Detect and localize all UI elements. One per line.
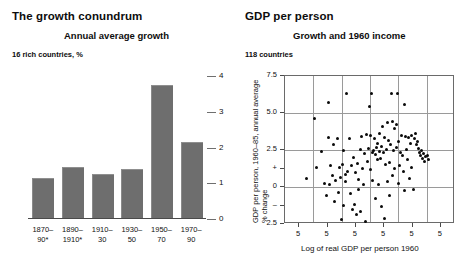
scatter-gridline-horizontal-2	[285, 150, 453, 151]
scatter-x-tick-label-1: 5	[317, 229, 337, 238]
scatter-point	[357, 178, 360, 181]
bar-category-label-6: 1970–90	[176, 225, 206, 244]
scatter-point	[339, 176, 342, 179]
scatter-y-tick-1	[280, 112, 284, 113]
bar-y-tick-label-2: 2	[219, 143, 223, 152]
scatter-point	[409, 142, 412, 145]
scatter-gridline-vertical-3	[370, 76, 371, 222]
scatter-point	[397, 182, 400, 185]
bar-chart-plot-area	[28, 76, 206, 219]
scatter-point	[354, 171, 357, 174]
scatter-point	[323, 182, 326, 185]
scatter-point	[338, 166, 341, 169]
scatter-gridline-vertical-1	[313, 76, 314, 222]
scatter-point	[353, 203, 356, 206]
scatter-x-tick-3	[383, 223, 384, 227]
scatter-point	[331, 174, 334, 177]
scatter-point	[363, 152, 366, 155]
scatter-point	[386, 121, 389, 124]
scatter-point	[391, 174, 394, 177]
bar-y-tick-label-3: 3	[219, 107, 223, 116]
scatter-point	[373, 137, 376, 140]
scatter-point	[344, 173, 347, 176]
scatter-point	[376, 142, 379, 145]
bar-y-tick-1	[207, 183, 216, 184]
bar-chart-baseline	[28, 218, 206, 219]
scatter-y-tick-5	[280, 205, 284, 206]
bar-2	[62, 167, 84, 218]
scatter-point	[341, 163, 344, 166]
scatter-point	[398, 164, 401, 167]
scatter-point	[345, 92, 348, 95]
scatter-point	[327, 136, 330, 139]
scatter-point	[395, 146, 398, 149]
bar-category-label-2: 1890–1910*	[58, 225, 88, 244]
scatter-point	[359, 148, 362, 151]
scatter-point	[346, 170, 349, 173]
scatter-point	[380, 145, 383, 148]
scatter-point	[384, 163, 387, 166]
bar-y-tick-0	[207, 219, 216, 220]
scatter-point	[416, 140, 419, 143]
scatter-point	[360, 135, 363, 138]
scatter-point	[337, 191, 340, 194]
left-panel-unit-note: 16 rich countries, %	[12, 50, 83, 59]
scatter-point	[386, 180, 389, 183]
scatter-point	[403, 103, 406, 106]
scatter-x-tick-label-0: 5	[288, 229, 308, 238]
scatter-point	[381, 125, 384, 128]
scatter-point	[427, 158, 430, 161]
scatter-y-axis-title-text: GDP per person, 1960–85, annual average …	[251, 73, 269, 223]
scatter-point	[414, 132, 417, 135]
bar-y-tick-label-4: 4	[219, 71, 223, 80]
scatter-point	[315, 166, 318, 169]
scatter-point	[388, 161, 391, 164]
scatter-point	[392, 149, 395, 152]
scatter-gridline-horizontal-1	[285, 113, 453, 114]
scatter-x-tick-0	[298, 223, 299, 227]
scatter-x-axis-title: Log of real GDP per person 1960	[301, 244, 419, 253]
scatter-gridline-horizontal-3	[285, 187, 453, 188]
scatter-point	[378, 132, 381, 135]
scatter-point	[376, 158, 379, 161]
scatter-x-tick-label-3: 5	[373, 229, 393, 238]
scatter-plot-area	[284, 75, 454, 223]
scatter-point	[365, 133, 368, 136]
scatter-point	[361, 167, 364, 170]
scatter-point	[379, 157, 382, 160]
scatter-point	[333, 200, 336, 203]
right-panel-unit-note: 118 countries	[245, 50, 293, 59]
scatter-point	[388, 194, 391, 197]
scatter-point	[400, 134, 403, 137]
scatter-point	[415, 143, 418, 146]
scatter-x-tick-label-2: 5	[345, 229, 365, 238]
scatter-point	[364, 220, 367, 223]
scatter-gridline-vertical-4	[398, 76, 399, 222]
scatter-point	[370, 92, 373, 95]
scatter-point	[325, 194, 328, 197]
scatter-point	[391, 120, 394, 123]
scatter-point	[342, 149, 345, 152]
scatter-y-tick-6	[280, 223, 284, 224]
scatter-x-tick-2	[355, 223, 356, 227]
scatter-x-tick-label-5: 5	[430, 229, 450, 238]
scatter-point	[374, 153, 377, 156]
bar-6	[181, 142, 203, 218]
bar-3	[92, 174, 114, 218]
bar-category-label-5: 1950–70	[147, 225, 177, 244]
scatter-point	[350, 164, 353, 167]
bar-y-tick-label-1: 1	[219, 178, 223, 187]
scatter-point	[389, 143, 392, 146]
scatter-point	[375, 146, 378, 149]
scatter-point	[374, 197, 377, 200]
scatter-point	[329, 164, 332, 167]
scatter-point	[410, 134, 413, 137]
scatter-point	[390, 92, 393, 95]
scatter-x-tick-5	[440, 223, 441, 227]
right-panel-title: GDP per person	[245, 10, 334, 22]
right-panel-subtitle: Growth and 1960 income	[293, 30, 405, 41]
scatter-point	[334, 179, 337, 182]
bar-1	[32, 178, 54, 218]
scatter-point	[348, 137, 351, 140]
scatter-point	[369, 134, 372, 137]
